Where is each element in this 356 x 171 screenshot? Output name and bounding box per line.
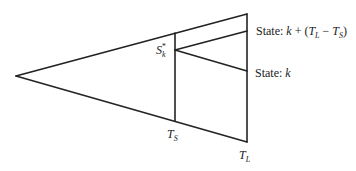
branch-lower-line [175,50,247,71]
state-k-prefix: State: [255,66,285,80]
s-k-star-label: Sk* [156,44,166,56]
state-minus: − [320,24,333,38]
state-k-value: k [285,66,290,80]
s-sub: k [162,50,166,59]
state-prefix: State: [256,24,286,38]
t-l-label: TL [239,149,250,161]
state-close: ) [343,24,347,38]
s-sup: * [162,42,166,51]
state-upper-label: State: k + (TL − TS) [256,25,347,37]
ts-sub: S [174,134,178,143]
outer-upper-edge [16,14,247,76]
state-plus: + ( [292,24,309,38]
t-s-label: TS [167,128,178,140]
tl-sub: L [246,155,250,164]
outer-lower-edge [16,76,247,142]
ts-main: T [167,127,174,141]
state-k-label: State: k [255,67,291,79]
branch-upper-line [175,31,247,50]
tl-main: T [239,148,246,162]
diagram-canvas: Sk* TS TL State: k + (TL − TS) State: k [0,0,356,171]
